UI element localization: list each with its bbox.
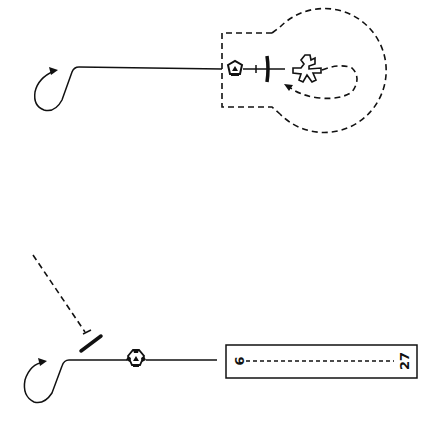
bottom-panel: 9 27 xyxy=(24,255,417,403)
runway-label-right: 27 xyxy=(397,352,412,370)
procedure-turn-arrow xyxy=(24,358,127,403)
top-panel xyxy=(35,8,386,132)
arrowhead-icon xyxy=(49,67,58,75)
diagram-svg: 9 27 xyxy=(0,0,445,426)
arrowhead-icon xyxy=(284,84,293,91)
arrowhead-icon xyxy=(38,358,47,366)
procedure-turn-arrow xyxy=(35,67,222,111)
runway-label-left: 9 xyxy=(232,356,247,365)
vor-station-icon xyxy=(228,61,242,76)
aircraft-icon xyxy=(81,330,101,351)
airport-icon xyxy=(293,55,321,82)
dashed-inbound-track xyxy=(33,255,85,332)
diagram-canvas: 9 27 xyxy=(0,0,445,426)
vor-station-icon xyxy=(126,350,146,367)
runway: 9 27 xyxy=(226,345,417,378)
